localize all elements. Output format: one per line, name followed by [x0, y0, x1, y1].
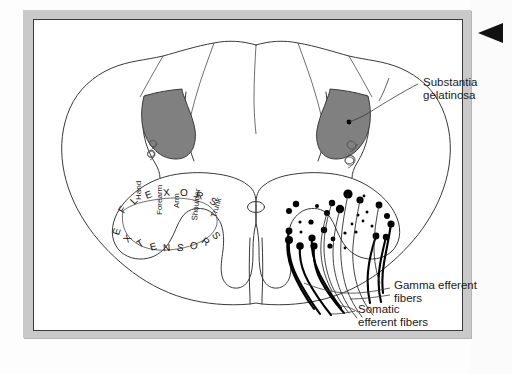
body-part-hand: Hand: [134, 181, 143, 200]
label-substantia-gelatinosa: Substantia gelatinosa: [423, 76, 477, 102]
extensors-letter-5: S: [176, 242, 184, 254]
label-substantia-gelatinosa-line2: gelatinosa: [423, 89, 477, 102]
label-gamma-efferent-line1: Gamma efferent: [394, 279, 477, 292]
substantia-gelatinosa-left: [142, 89, 196, 159]
substantia-gelatinosa-right: [317, 89, 371, 159]
edge-triangle-icon: [478, 23, 503, 43]
label-somatic-efferent-fibers: Somatic efferent fibers: [358, 303, 428, 329]
body-part-arm: Arm: [172, 193, 181, 208]
label-gamma-efferent-fibers: Gamma efferent fibers: [394, 279, 477, 305]
spinal-cord-illustration: .ol{fill:none;stroke:#3a3a3a;stroke-widt…: [0, 0, 512, 374]
label-somatic-efferent-line2: efferent fibers: [358, 316, 428, 329]
extensors-letter-4: N: [163, 242, 171, 253]
body-part-forearm: Forearm: [155, 185, 164, 215]
label-substantia-gelatinosa-line1: Substantia: [423, 76, 477, 89]
label-somatic-efferent-line1: Somatic: [358, 303, 428, 316]
somatic-efferent-fiber-bundle: [287, 224, 391, 315]
figure-stage: .ol{fill:none;stroke:#3a3a3a;stroke-widt…: [0, 0, 512, 374]
cord-outer-boundary: [62, 41, 451, 304]
motor-neuron-cluster: [285, 189, 395, 249]
